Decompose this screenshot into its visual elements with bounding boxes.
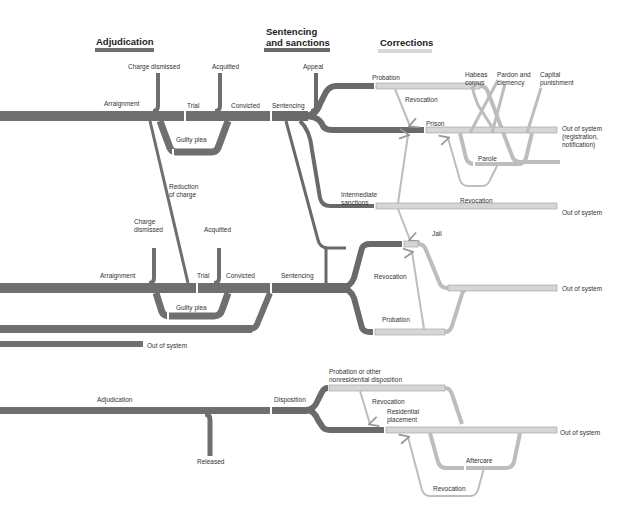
felony-probation-label: Probation — [372, 74, 400, 82]
pardon-label-1: Pardon and — [497, 71, 531, 79]
misd-trial-label: Trial — [197, 272, 209, 280]
disposition-label: Disposition — [274, 396, 306, 404]
capital-punishment-label-1: Capital — [540, 71, 560, 79]
juv-out-of-system-label: Out of system — [560, 429, 600, 437]
felony-out-of-system-label-2: (registration, — [562, 133, 598, 141]
sentencing-header-line1: Sentencing — [266, 26, 317, 37]
misd-guilty-plea-label: Guilty plea — [176, 304, 207, 312]
habeas-corpus-label-2: corpus — [465, 79, 485, 87]
intermediate-sanctions-label-1: Intermediate — [341, 191, 377, 199]
reduction-of-charge-label-2: of charge — [169, 191, 196, 199]
reduction-of-charge-label-1: Reduction — [169, 183, 198, 191]
misd-arraignment-label: Arraignment — [100, 272, 135, 280]
habeas-corpus-label-1: Habeas — [465, 71, 487, 79]
corrections-header-bar — [378, 49, 432, 53]
felony-out-of-system-label-3: notification) — [562, 141, 595, 149]
misd-charge-dismissed-label-2: dismissed — [134, 226, 163, 234]
residential-placement-label-1: Residential — [387, 408, 419, 416]
adjudication-header-bar — [95, 48, 154, 52]
felony-arraignment-label: Arraignment — [104, 100, 139, 108]
sentencing-header-line2: and sanctions — [266, 37, 330, 48]
felony-sentencing-label: Sentencing — [272, 102, 305, 110]
misd-sentencing-label: Sentencing — [281, 272, 314, 280]
felony-trial-label: Trial — [187, 102, 199, 110]
misd-acquitted-label: Acquitted — [204, 226, 231, 234]
pardon-label-2: clemency — [497, 79, 524, 87]
juvenile-adjudication-label: Adjudication — [97, 396, 132, 404]
juv-probation-label-2: nonresidential disposition — [329, 376, 402, 384]
intermediate-sanctions-label-2: sanctions — [341, 199, 368, 207]
felony-guilty-plea-label: Guilty plea — [176, 136, 207, 144]
felony-charge-dismissed-label: Charge dismissed — [128, 63, 180, 71]
corrections-header: Corrections — [380, 37, 433, 48]
misd-probation-label: Probation — [382, 316, 410, 324]
juv-probation-label-1: Probation or other — [329, 368, 381, 376]
intermediate-out-of-system-label: Out of system — [562, 209, 602, 217]
prison-label: Prison — [426, 120, 444, 128]
misd-convicted-label: Convicted — [226, 272, 255, 280]
residential-placement-label-2: placement — [387, 416, 417, 424]
released-label: Released — [197, 458, 224, 466]
felony-acquitted-label: Acquitted — [212, 63, 239, 71]
felony-appeal-label: Appeal — [303, 63, 323, 71]
juv-revocation-bottom-label: Revocation — [433, 485, 466, 493]
felony-convicted-label: Convicted — [231, 102, 260, 110]
misd-out-of-system-label: Out of system — [562, 285, 602, 293]
parole-label: Parole — [478, 155, 497, 163]
criminal-justice-flow-diagram — [0, 0, 633, 517]
misdemeanor-flow — [0, 241, 557, 347]
felony-out-of-system-label-1: Out of system — [562, 125, 602, 133]
juv-revocation-top-label: Revocation — [372, 398, 405, 406]
jail-label: Jail — [432, 230, 442, 238]
sentencing-header-bar — [264, 48, 330, 52]
parole-revocation-label: Revocation — [460, 197, 493, 205]
adjudication-header: Adjudication — [96, 36, 154, 47]
felony-revocation-label: Revocation — [405, 96, 438, 104]
capital-punishment-label-2: punishment — [540, 79, 574, 87]
petty-out-of-system-label: Out of system — [147, 342, 187, 350]
aftercare-label: Aftercare — [466, 457, 492, 465]
misd-charge-dismissed-label-1: Charge — [134, 218, 155, 226]
misd-revocation-label: Revocation — [374, 273, 407, 281]
